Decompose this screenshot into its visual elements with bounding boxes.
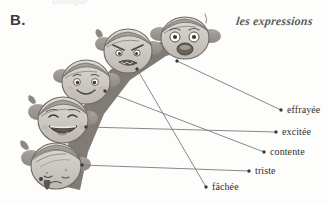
label-dot-effrayee[interactable] <box>279 108 282 111</box>
label-dot-contente[interactable] <box>262 150 265 153</box>
line-effrayee-to-label[interactable] <box>175 59 282 111</box>
line-excitee-to-label[interactable] <box>84 125 277 133</box>
line-triste-to-label[interactable] <box>80 163 250 172</box>
face-dot-effrayee[interactable] <box>175 59 178 62</box>
label-dot-fachee[interactable] <box>204 185 207 188</box>
label-fachee[interactable]: fâchée <box>212 181 239 192</box>
face-dot-contente[interactable] <box>103 89 106 92</box>
label-effrayee[interactable]: effrayée <box>287 104 320 115</box>
label-triste[interactable]: triste <box>255 165 276 176</box>
label-excitee[interactable]: excitée <box>282 126 311 137</box>
label-contente[interactable]: contente <box>270 146 305 157</box>
line-fachee-to-label[interactable] <box>135 67 207 188</box>
face-dot-fachee[interactable] <box>135 67 138 70</box>
face-dot-triste[interactable] <box>80 163 83 166</box>
matching-connector-lines[interactable] <box>0 0 329 204</box>
line-contente-to-label[interactable] <box>103 89 265 153</box>
worksheet-page: Dialogue B. les expressions <box>0 0 329 204</box>
face-dot-excitee[interactable] <box>84 125 87 128</box>
label-dot-excitee[interactable] <box>274 130 277 133</box>
label-dot-triste[interactable] <box>247 169 250 172</box>
